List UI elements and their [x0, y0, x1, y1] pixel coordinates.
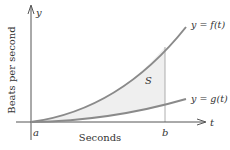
- point-b-label: b: [162, 127, 168, 138]
- region-s-label: S: [145, 75, 152, 86]
- curve-f-label: y = f(t): [190, 19, 225, 30]
- horizontal-axis-title: Seconds: [79, 132, 121, 143]
- vertical-axis-title: Beats per second: [6, 26, 17, 114]
- point-a-label: a: [33, 127, 39, 138]
- curve-g-label: y = g(t): [190, 93, 228, 104]
- y-axis-label: y: [35, 7, 42, 18]
- area-between-curves-diagram: y t Beats per second Seconds a b y = f(t…: [0, 0, 230, 150]
- t-axis-label: t: [210, 117, 215, 128]
